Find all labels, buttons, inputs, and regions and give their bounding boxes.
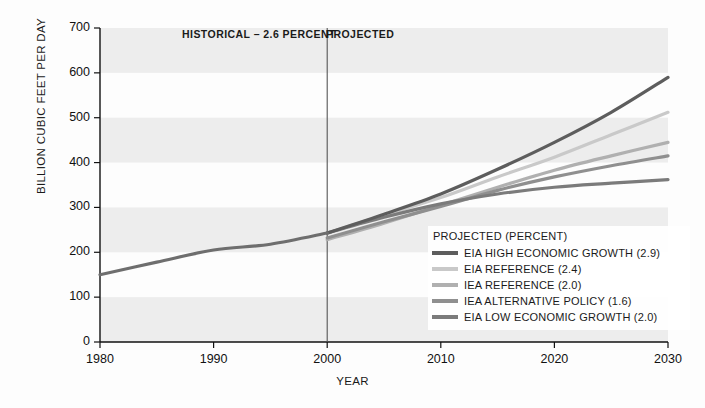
x-tick-label: 2000 <box>292 352 362 366</box>
x-tick-label: 1980 <box>65 352 135 366</box>
x-tick-label: 2030 <box>633 352 703 366</box>
legend-item-label: IEA ALTERNATIVE POLICY (1.6) <box>464 295 632 307</box>
chart-legend: PROJECTED (PERCENT) EIA HIGH ECONOMIC GR… <box>428 226 690 330</box>
annotation-historical: HISTORICAL – 2.6 PERCENT <box>182 28 336 40</box>
legend-entries: EIA HIGH ECONOMIC GROWTH (2.9)EIA REFERE… <box>432 245 686 325</box>
chart-band-1 <box>100 118 668 163</box>
y-tick-label: 200 <box>42 244 90 258</box>
chart-plot-area <box>0 0 705 408</box>
legend-item-label: EIA LOW ECONOMIC GROWTH (2.0) <box>464 311 657 323</box>
chart-canvas: BILLION CUBIC FEET PER DAY YEAR 01002003… <box>0 0 705 408</box>
x-tick-label: 2010 <box>406 352 476 366</box>
legend-title: PROJECTED (PERCENT) <box>433 230 686 242</box>
y-tick-label: 500 <box>42 110 90 124</box>
x-tick-label: 2020 <box>519 352 589 366</box>
legend-item: IEA REFERENCE (2.0) <box>432 277 686 293</box>
y-tick-label: 400 <box>42 155 90 169</box>
annotation-projected: PROJECTED <box>326 28 394 40</box>
legend-item: EIA HIGH ECONOMIC GROWTH (2.9) <box>432 245 686 261</box>
x-tick-label: 1990 <box>179 352 249 366</box>
y-tick-label: 100 <box>42 289 90 303</box>
legend-item-label: EIA REFERENCE (2.4) <box>464 263 582 275</box>
legend-item-label: EIA HIGH ECONOMIC GROWTH (2.9) <box>464 247 660 259</box>
legend-swatch-icon <box>432 299 458 303</box>
legend-item: EIA REFERENCE (2.4) <box>432 261 686 277</box>
legend-item: IEA ALTERNATIVE POLICY (1.6) <box>432 293 686 309</box>
legend-item: EIA LOW ECONOMIC GROWTH (2.0) <box>432 309 686 325</box>
y-tick-label: 300 <box>42 199 90 213</box>
legend-swatch-icon <box>432 251 458 255</box>
y-tick-label: 600 <box>42 65 90 79</box>
legend-swatch-icon <box>432 283 458 287</box>
y-tick-label: 700 <box>42 20 90 34</box>
legend-swatch-icon <box>432 267 458 271</box>
legend-swatch-icon <box>432 315 458 319</box>
legend-item-label: IEA REFERENCE (2.0) <box>464 279 582 291</box>
y-tick-label: 0 <box>42 334 90 348</box>
x-axis-title: YEAR <box>0 375 705 387</box>
